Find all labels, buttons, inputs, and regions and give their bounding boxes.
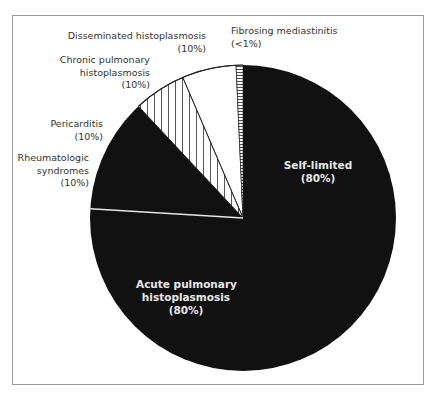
label-self-limited: Self-limited (80%) xyxy=(280,159,356,185)
label-line: Rheumatologic xyxy=(18,152,89,165)
label-line: histoplasmosis xyxy=(136,291,236,304)
label-line: Pericarditis xyxy=(50,118,103,131)
label-acute-pulmonary: Acute pulmonary histoplasmosis (80%) xyxy=(136,278,236,317)
label-line: Fibrosing mediastinitis xyxy=(231,25,338,38)
label-value: (10%) xyxy=(50,131,103,144)
label-line: Self-limited xyxy=(280,159,356,172)
label-disseminated: Disseminated histoplasmosis (10%) xyxy=(68,30,206,55)
label-line: histoplasmosis xyxy=(60,67,150,80)
label-line: Chronic pulmonary xyxy=(60,54,150,67)
label-fibrosing: Fibrosing mediastinitis (<1%) xyxy=(231,25,338,50)
label-pericarditis: Pericarditis (10%) xyxy=(50,118,103,143)
label-value: (<1%) xyxy=(231,38,338,51)
label-value: (10%) xyxy=(60,79,150,92)
label-rheumatologic: Rheumatologic syndromes (10%) xyxy=(18,152,89,190)
label-line: syndromes xyxy=(18,165,89,178)
label-value: (80%) xyxy=(136,304,236,317)
label-value: (10%) xyxy=(18,177,89,190)
label-line: Acute pulmonary xyxy=(136,278,236,291)
label-value: (80%) xyxy=(280,172,356,185)
label-line: Disseminated histoplasmosis xyxy=(68,30,206,43)
label-chronic-pulmonary: Chronic pulmonary histoplasmosis (10%) xyxy=(60,54,150,92)
